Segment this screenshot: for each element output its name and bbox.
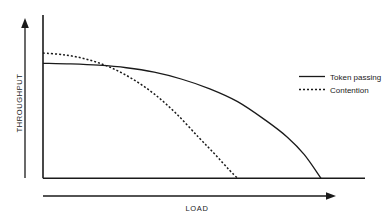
legend-item-contention: Contention <box>299 86 369 95</box>
legend-label-token-passing: Token passing <box>330 73 381 82</box>
series-token-passing <box>43 63 321 178</box>
plot-axes <box>43 15 365 178</box>
series-contention <box>43 53 238 178</box>
y-axis-title: THROUGHPUT <box>15 74 24 133</box>
legend-label-contention: Contention <box>330 86 369 95</box>
x-axis-title: LOAD <box>186 204 209 213</box>
legend-item-token-passing: Token passing <box>299 73 381 82</box>
chart-container: THROUGHPUT LOAD Token passing Contention <box>0 0 386 222</box>
chart-svg: THROUGHPUT LOAD Token passing Contention <box>0 0 386 222</box>
chart-legend: Token passing Contention <box>299 73 381 95</box>
x-axis-direction-arrow <box>43 192 336 200</box>
